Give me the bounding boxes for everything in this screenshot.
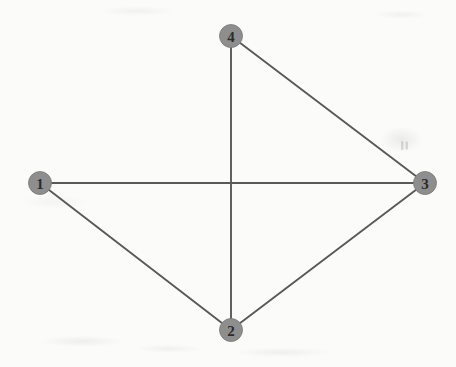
node-1[interactable]: 1 [29, 172, 52, 195]
graph-svg: 4 1 3 2 [0, 0, 456, 367]
smudge-right-icon [401, 141, 404, 150]
graph-diagram-canvas: 4 1 3 2 [0, 0, 456, 367]
edge-1-2[interactable] [40, 183, 231, 330]
node-1-label: 1 [36, 176, 44, 192]
edge-layer [40, 36, 425, 330]
edge-4-3[interactable] [231, 36, 425, 183]
node-3-label: 3 [421, 176, 429, 192]
node-2[interactable]: 2 [220, 319, 243, 342]
node-4[interactable]: 4 [220, 25, 243, 48]
smudge-right-secondary-icon [406, 142, 409, 150]
node-3[interactable]: 3 [414, 172, 437, 195]
artifact-layer [401, 141, 408, 150]
edge-2-3[interactable] [231, 183, 425, 330]
node-4-label: 4 [227, 29, 235, 45]
node-2-label: 2 [227, 323, 235, 339]
